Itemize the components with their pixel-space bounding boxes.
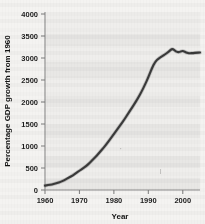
x-tick-label-2000: 2000 <box>174 196 191 205</box>
x-tick-label-1990: 1990 <box>140 196 157 205</box>
y-tick-label-4000: 4000 <box>21 10 38 19</box>
y-tick-label-1500: 1500 <box>21 120 38 129</box>
x-tick-label-1980: 1980 <box>106 196 123 205</box>
y-tick-label-500: 500 <box>25 164 38 173</box>
figure-panel: 0 500 1000 1500 2000 2500 3000 3500 4000… <box>0 0 205 224</box>
y-tick-label-2500: 2500 <box>21 76 38 85</box>
x-tick-label-1960: 1960 <box>37 196 54 205</box>
y-tick-label-2000: 2000 <box>21 98 38 107</box>
gdp-growth-line-chart: 0 500 1000 1500 2000 2500 3000 3500 4000… <box>0 0 205 224</box>
y-tick-label-0: 0 <box>34 186 38 195</box>
y-tick-label-1000: 1000 <box>21 142 38 151</box>
x-tick-marks <box>45 190 183 194</box>
y-tick-label-3000: 3000 <box>21 54 38 63</box>
y-axis-title: Percentage GDP growth from 1960 <box>3 35 12 167</box>
x-axis-title: Year <box>112 212 129 221</box>
x-tick-label-1970: 1970 <box>71 196 88 205</box>
y-tick-label-3500: 3500 <box>21 32 38 41</box>
y-tick-marks <box>41 14 45 190</box>
